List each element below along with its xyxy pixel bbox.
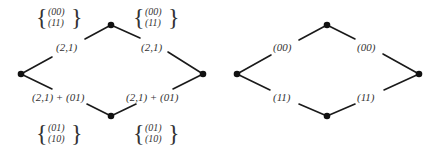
left-diagram: (2,1) (2,1) (2,1) + (01) (2,1) + (01) { …	[18, 4, 207, 146]
edge-left-bottom-left-a	[21, 74, 52, 89]
open-brace: {	[133, 4, 145, 30]
edge-label-left-bottom-left: (2,1) + (01)	[32, 91, 85, 104]
edge-label-left-top-right: (2,1)	[141, 41, 162, 54]
set-item: (10)	[145, 133, 162, 145]
set-item: (11)	[48, 17, 65, 29]
edge-right-bottom-left-b	[299, 104, 327, 116]
right-diagram: (00) (00) (11) (11)	[234, 22, 423, 120]
edge-left-top-right-b	[168, 52, 203, 74]
close-brace: }	[71, 120, 83, 146]
set-bottom-right: { (01) (10) }	[133, 120, 180, 146]
edge-right-bottom-left-a	[237, 74, 270, 90]
edge-left-bottom-right-b	[173, 74, 203, 89]
edge-label-right-bottom-left: (11)	[273, 91, 291, 104]
node-right-right	[416, 71, 423, 78]
edge-right-top-left-b	[299, 25, 327, 40]
close-brace: }	[168, 120, 180, 146]
edge-right-top-right-b	[383, 54, 419, 74]
open-brace: {	[133, 120, 145, 146]
node-left-left	[18, 71, 25, 78]
set-top-right: { (00) (11) }	[133, 4, 180, 30]
edge-label-right-bottom-right: (11)	[357, 91, 375, 104]
edge-label-left-bottom-right: (2,1) + (01)	[126, 91, 179, 104]
edge-right-bottom-right-b	[384, 74, 419, 90]
edge-right-top-right-a	[327, 25, 355, 39]
set-bottom-left: { (01) (10) }	[36, 120, 83, 146]
close-brace: }	[168, 4, 180, 30]
edge-right-bottom-right-a	[327, 104, 355, 116]
set-top-left: { (00) (11) }	[36, 4, 83, 30]
edge-left-bottom-left-b	[87, 104, 111, 116]
edge-label-right-top-left: (00)	[273, 41, 292, 54]
edge-left-bottom-right-a	[111, 104, 136, 116]
node-left-bottom	[108, 113, 115, 120]
trellis-diagrams: (2,1) (2,1) (2,1) + (01) (2,1) + (01) { …	[0, 0, 438, 151]
node-right-top	[324, 22, 331, 29]
edge-label-right-top-right: (00)	[357, 41, 376, 54]
edge-left-top-left-b	[85, 25, 111, 39]
node-right-bottom	[324, 113, 331, 120]
edge-label-left-top-left: (2,1)	[56, 41, 77, 54]
close-brace: }	[71, 4, 83, 30]
node-left-top	[108, 22, 115, 29]
edge-right-top-left-a	[237, 55, 271, 74]
open-brace: {	[36, 120, 48, 146]
set-item: (10)	[48, 133, 65, 145]
set-item: (11)	[145, 17, 162, 29]
node-right-left	[234, 71, 241, 78]
open-brace: {	[36, 4, 48, 30]
edge-left-top-left-a	[21, 57, 52, 74]
node-left-right	[200, 71, 207, 78]
